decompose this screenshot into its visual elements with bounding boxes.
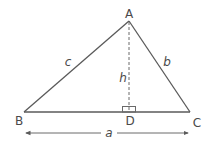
- triangle-diagram: A B C D c b h a: [0, 0, 209, 144]
- vertex-label-b: B: [15, 114, 23, 128]
- vertex-label-a: A: [125, 7, 134, 21]
- dimension-label-a: a: [105, 126, 112, 140]
- side-label-b: b: [163, 55, 171, 69]
- vertex-label-c: C: [193, 116, 201, 130]
- vertex-label-d: D: [125, 114, 134, 128]
- side-label-c: c: [65, 55, 72, 69]
- side-b: [129, 21, 190, 112]
- altitude-label-h: h: [119, 71, 127, 85]
- side-c: [24, 21, 129, 112]
